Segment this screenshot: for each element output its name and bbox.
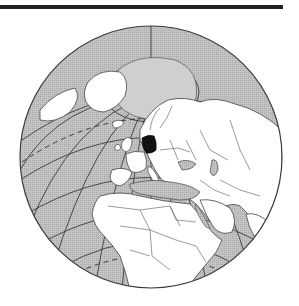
highlight-germany (142, 135, 156, 153)
globe-map: Germany location on globe (0, 0, 299, 306)
globe-svg (0, 0, 299, 306)
